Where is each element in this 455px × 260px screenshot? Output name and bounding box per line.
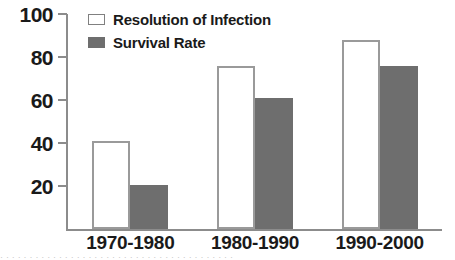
x-axis-line bbox=[66, 229, 442, 231]
bar-1970-1980-resolution bbox=[92, 141, 130, 229]
y-tick-40: 40 bbox=[58, 142, 67, 144]
open-square-swatch-icon bbox=[88, 14, 105, 25]
tick-mark-icon bbox=[58, 13, 67, 15]
y-tick-60: 60 bbox=[58, 99, 67, 101]
y-tick-label: 80 bbox=[31, 47, 53, 68]
x-group-label-1990-2000: 1990-2000 bbox=[320, 233, 440, 252]
y-tick-100: 100 bbox=[58, 13, 67, 15]
tick-mark-icon bbox=[58, 185, 67, 187]
bar-1990-2000-resolution bbox=[342, 40, 380, 229]
tick-mark-icon bbox=[58, 142, 67, 144]
legend-label: Resolution of Infection bbox=[113, 12, 271, 27]
y-tick-label: 40 bbox=[31, 133, 53, 154]
legend-item-resolution-of-infection: Resolution of Infection bbox=[88, 9, 271, 30]
legend-label: Survival Rate bbox=[113, 35, 205, 50]
y-tick-20: 20 bbox=[58, 185, 67, 187]
legend-item-survival-rate: Survival Rate bbox=[88, 32, 271, 53]
tick-mark-icon bbox=[58, 56, 67, 58]
y-tick-80: 80 bbox=[58, 56, 67, 58]
bar-1970-1980-survival bbox=[130, 185, 168, 229]
clipped-caption-text: · · · · · · · · · · · · · · · · · · · · … bbox=[0, 253, 455, 260]
tick-mark-icon bbox=[58, 99, 67, 101]
bar-chart: 20406080100 1970-19801980-19901990-2000 … bbox=[0, 0, 455, 260]
y-tick-label: 20 bbox=[31, 176, 53, 197]
x-group-label-1980-1990: 1980-1990 bbox=[195, 233, 315, 252]
clipped-caption: · · · · · · · · · · · · · · · · · · · · … bbox=[0, 253, 455, 260]
filled-square-swatch-icon bbox=[88, 37, 105, 48]
y-tick-label: 60 bbox=[31, 90, 53, 111]
x-group-label-1970-1980: 1970-1980 bbox=[70, 233, 190, 252]
bar-1980-1990-survival bbox=[255, 98, 293, 229]
chart-legend: Resolution of Infection Survival Rate bbox=[88, 9, 271, 55]
bar-1980-1990-resolution bbox=[217, 66, 255, 229]
bar-1990-2000-survival bbox=[380, 66, 418, 229]
y-tick-label: 100 bbox=[19, 4, 53, 25]
